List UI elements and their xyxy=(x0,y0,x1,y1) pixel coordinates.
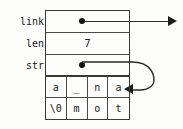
struct-row-len: 7 xyxy=(46,33,129,55)
link-pointer-line xyxy=(84,21,170,23)
field-label-len: len xyxy=(0,39,44,49)
figure-canvas: link len str 7 a _ n a \0 m o t xyxy=(0,0,183,129)
char-cell: m xyxy=(67,98,88,119)
field-label-str: str xyxy=(0,61,44,71)
char-cell: a xyxy=(46,77,67,98)
char-cell: _ xyxy=(67,77,88,98)
char-array-grid: a _ n a \0 m o t xyxy=(45,76,130,120)
char-cell: o xyxy=(88,98,109,119)
char-cell: n xyxy=(88,77,109,98)
struct-row-len-value: 7 xyxy=(46,33,129,54)
char-cell: \0 xyxy=(46,98,67,119)
struct-row-link xyxy=(46,11,129,33)
link-pointer-arrowhead-icon xyxy=(168,16,177,26)
field-label-link: link xyxy=(0,17,44,27)
char-cell: a xyxy=(108,77,129,98)
char-cell: t xyxy=(108,98,129,119)
